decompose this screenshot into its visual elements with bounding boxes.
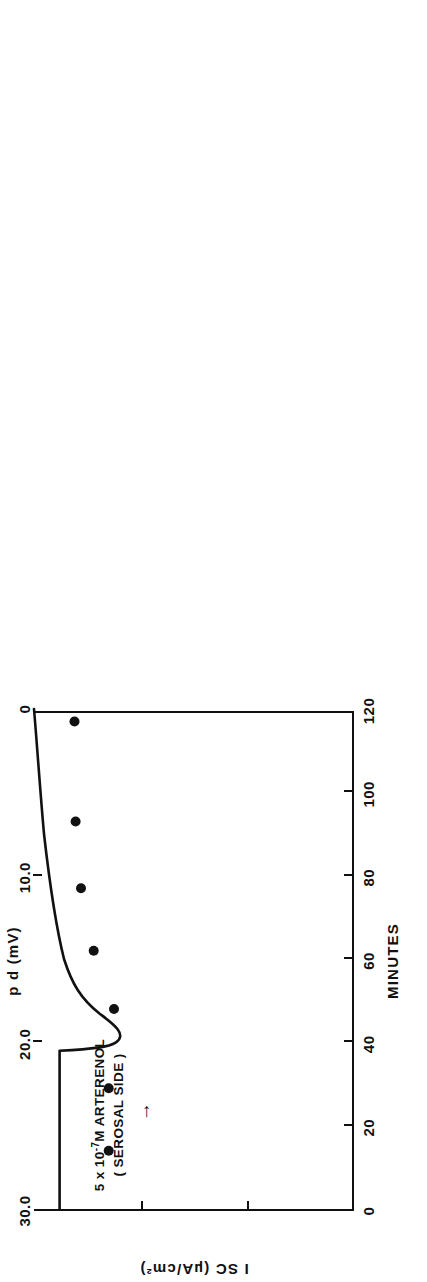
y-axis-title-text-arterenol: I SC (µA/cm²) bbox=[139, 1261, 248, 1278]
axis-label-x-60-arterenol: 60 bbox=[360, 952, 377, 970]
annotation-line-1-arterenol: 5 x 10-7M ARTERENOL bbox=[89, 1039, 110, 1192]
annotation-arterenol: 5 x 10-7M ARTERENOL ( SEROSAL SIDE ) bbox=[89, 1039, 128, 1192]
annotation-conc-arterenol: 5 x 10 bbox=[92, 1151, 107, 1191]
data-point-arterenol bbox=[89, 946, 99, 956]
axis-label-pd-10-arterenol: 10.0 bbox=[16, 862, 33, 893]
data-point-arterenol bbox=[76, 883, 86, 893]
axis-label-pd-20-arterenol: 20.0 bbox=[16, 1029, 33, 1060]
axis-label-x-0-arterenol: 0 bbox=[360, 1207, 377, 1216]
secondary-axis-title-arterenol: p d (mV) bbox=[4, 926, 21, 996]
annotation-exponent-arterenol: -7 bbox=[90, 1142, 101, 1152]
curve-svg-arterenol bbox=[34, 709, 354, 1209]
x-axis-title-arterenol: MINUTES bbox=[384, 923, 401, 999]
data-point-arterenol bbox=[70, 717, 80, 727]
annotation-drug-arterenol: M ARTERENOL bbox=[92, 1039, 107, 1142]
data-point-arterenol bbox=[71, 817, 81, 827]
axis-label-x-40-arterenol: 40 bbox=[360, 1035, 377, 1053]
data-point-arterenol bbox=[109, 1004, 119, 1014]
y-axis-title-arterenol: I SC (µA/cm²) bbox=[139, 1261, 248, 1278]
figure-stage: p d (mV) bbox=[0, 0, 427, 1282]
annotation-arrow-icon-arterenol: → bbox=[134, 1102, 153, 1121]
axis-label-x-120-arterenol: 120 bbox=[360, 698, 377, 725]
axis-label-x-80-arterenol: 80 bbox=[360, 869, 377, 887]
annotation-line-2-arterenol: ( SEROSAL SIDE ) bbox=[109, 1039, 127, 1192]
plot-area-arterenol bbox=[34, 711, 354, 1211]
axis-label-pd-0-arterenol: 0 bbox=[16, 705, 33, 714]
axis-label-pd-30-arterenol: 30.0 bbox=[16, 1195, 33, 1226]
axis-label-x-20-arterenol: 20 bbox=[360, 1119, 377, 1137]
axis-label-x-100-arterenol: 100 bbox=[360, 781, 377, 808]
chart-panel-arterenol: p d (mV) bbox=[0, 641, 427, 1281]
